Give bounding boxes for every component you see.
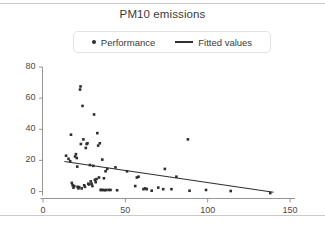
scatter-point (205, 189, 208, 192)
scatter-point (76, 165, 79, 168)
scatter-point (114, 166, 117, 169)
x-tick-label: 50 (105, 205, 145, 215)
data-group (64, 85, 273, 194)
scatter-point (150, 189, 153, 192)
scatter-point (95, 178, 98, 181)
scatter-point (79, 88, 82, 91)
x-tick-label: 150 (270, 205, 310, 215)
scatter-point (91, 185, 94, 188)
scatter-point (103, 177, 106, 180)
scatter-point (80, 143, 83, 146)
fitted-values-line (64, 161, 273, 192)
scatter-point (162, 188, 165, 191)
y-tick-label: 40 (3, 123, 36, 133)
axes-group (39, 67, 295, 203)
scatter-point (75, 157, 78, 160)
scatter-point (71, 182, 74, 185)
scatter-point (109, 189, 112, 192)
scatter-point (65, 154, 68, 157)
chart-figure: PM10 emissions Performance Fitted values… (0, 0, 325, 227)
y-tick-label: 0 (3, 186, 36, 196)
plot-area (0, 0, 325, 227)
scatter-point (98, 176, 101, 179)
x-tick-label: 0 (23, 205, 63, 215)
y-tick-label: 60 (3, 92, 36, 102)
x-tick-label: 100 (188, 205, 228, 215)
scatter-point (89, 180, 92, 183)
scatter-point (82, 138, 85, 141)
scatter-point (145, 188, 148, 191)
scatter-point (78, 186, 81, 189)
scatter-point (99, 142, 102, 145)
scatter-point (86, 142, 89, 145)
scatter-point (229, 190, 232, 193)
scatter-point (94, 181, 97, 184)
scatter-point (67, 158, 70, 161)
scatter-point (101, 158, 104, 161)
y-tick-label: 80 (3, 61, 36, 71)
scatter-point (116, 189, 119, 192)
scatter-point (81, 105, 84, 108)
scatter-point (105, 189, 108, 192)
scatter-point (137, 175, 140, 178)
scatter-point (88, 183, 91, 186)
scatter-point (79, 85, 82, 88)
y-tick-label: 20 (3, 154, 36, 164)
scatter-point (97, 144, 100, 147)
scatter-point (84, 186, 87, 189)
scatter-point (157, 186, 160, 189)
scatter-point (187, 138, 190, 141)
scatter-point (188, 189, 191, 192)
scatter-point (70, 133, 73, 136)
scatter-point (75, 153, 78, 156)
scatter-point (134, 185, 137, 188)
scatter-point (80, 187, 83, 190)
scatter-point (90, 182, 93, 185)
scatter-point (96, 132, 99, 135)
scatter-point (164, 168, 167, 171)
scatter-point (73, 185, 76, 188)
scatter-point (104, 170, 107, 173)
scatter-point (85, 147, 88, 150)
scatter-point (93, 113, 96, 116)
scatter-point (170, 188, 173, 191)
